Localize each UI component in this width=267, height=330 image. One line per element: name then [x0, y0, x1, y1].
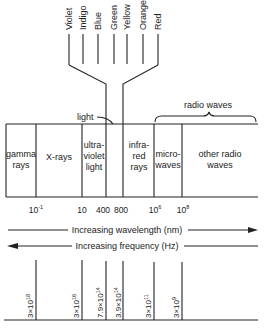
wavelength-axis: Increasing wavelength (nm) [8, 225, 258, 235]
frequency-tick: 3×1011 [143, 294, 153, 318]
wavelength-tick: 800 [114, 205, 128, 215]
region-other-radio: other radiowaves [198, 149, 241, 170]
radio-waves-label: radio waves [184, 100, 233, 110]
color-label-red: Red [153, 13, 163, 30]
wavelength-tick: 10-1 [29, 204, 43, 215]
wavelength-tick: 106 [149, 204, 162, 215]
region-gamma: gammarays [6, 149, 36, 170]
region-labels: gammarays X-rays ultra-violetlight infra… [6, 140, 242, 172]
color-label-indigo: Indigo [78, 5, 88, 30]
frequency-axis-label: Increasing frequency (Hz) [75, 241, 178, 251]
wavelength-tick: 400 [96, 205, 110, 215]
region-uv: ultra-violetlight [83, 140, 105, 172]
wavelength-tick: 10 [77, 205, 87, 215]
frequency-tick-labels: 3×1018 3×1016 7.9×1014 3.9×1014 3×1011 3… [25, 287, 181, 318]
color-label-yellow: Yellow [122, 4, 132, 30]
frequency-tick: 3×109 [171, 297, 181, 318]
wavelength-axis-label: Increasing wavelength (nm) [72, 225, 183, 235]
wavelength-tick-labels: 10-1 10 400 800 106 108 [29, 204, 189, 215]
arrow-right-icon [248, 227, 258, 233]
visible-color-lines [69, 34, 158, 65]
wavelength-tick: 108 [177, 204, 190, 215]
region-microwaves: micro-waves [154, 149, 181, 170]
color-label-violet: Violet [64, 7, 74, 30]
frequency-tick-lines [4, 260, 258, 320]
light-label: light [77, 112, 94, 122]
frequency-tick: 3×1018 [25, 294, 35, 318]
light-pointer [97, 117, 113, 124]
color-label-blue: Blue [93, 12, 103, 30]
electromagnetic-spectrum-diagram: Violet Indigo Blue Green Yellow Orange R… [0, 0, 267, 330]
frequency-axis: Increasing frequency (Hz) [7, 241, 258, 251]
color-label-green: Green [109, 5, 119, 30]
visible-color-labels: Violet Indigo Blue Green Yellow Orange R… [64, 0, 163, 30]
frequency-tick: 3×1016 [71, 294, 81, 318]
region-xrays: X-rays [46, 152, 73, 162]
region-infrared: infra-redrays [129, 140, 150, 172]
radio-waves-brace [155, 112, 256, 122]
color-label-orange: Orange [138, 0, 148, 30]
frequency-tick: 3.9×1014 [113, 287, 123, 318]
frequency-tick: 7.9×1014 [95, 287, 105, 318]
